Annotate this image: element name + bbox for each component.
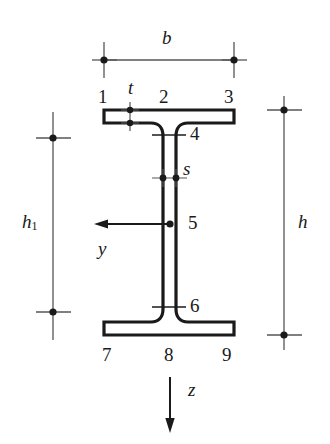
node-label-8: 8 bbox=[164, 345, 174, 364]
axis-label-z: z bbox=[188, 380, 195, 399]
dimension-label-t: t bbox=[128, 78, 133, 97]
dimension-line-h1 bbox=[36, 112, 71, 340]
dimension-label-h1: h1 bbox=[22, 212, 38, 232]
node-label-4: 4 bbox=[190, 124, 200, 143]
node-label-9: 9 bbox=[222, 345, 232, 364]
dimension-label-b: b bbox=[162, 28, 172, 47]
axis-label-y: y bbox=[98, 239, 106, 258]
node-label-2: 2 bbox=[159, 87, 169, 106]
beam-cross-section-figure: b 1 t 2 3 4 s 5 h1 y h 6 7 8 9 z bbox=[0, 0, 330, 444]
node-label-5: 5 bbox=[188, 213, 198, 232]
dimension-label-h1-base: h bbox=[22, 211, 32, 232]
dimension-line-t bbox=[121, 102, 139, 131]
cross-section-drawing bbox=[0, 0, 330, 444]
node-label-3: 3 bbox=[224, 87, 234, 106]
axis-arrow-z bbox=[165, 377, 174, 433]
dimension-label-h1-subscript: 1 bbox=[32, 219, 38, 233]
dimension-line-h bbox=[267, 96, 302, 350]
node-label-1: 1 bbox=[98, 87, 108, 106]
axis-arrow-y bbox=[94, 220, 170, 229]
node-label-7: 7 bbox=[102, 345, 112, 364]
dimension-line-s bbox=[152, 169, 187, 187]
dimension-label-h: h bbox=[298, 212, 308, 231]
node-label-6: 6 bbox=[190, 296, 200, 315]
dimension-label-s: s bbox=[183, 159, 190, 178]
